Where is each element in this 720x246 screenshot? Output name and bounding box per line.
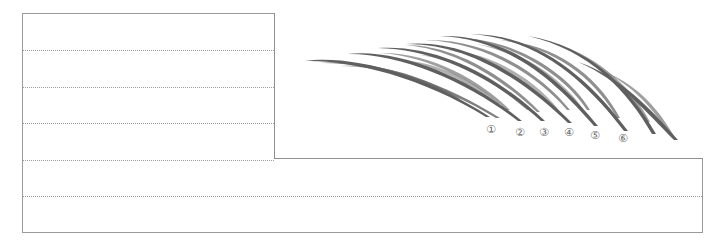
stroke-label-1: ① <box>486 124 496 135</box>
eyebrow-strokes-illustration <box>0 0 720 246</box>
stroke-label-5: ⑤ <box>590 130 600 141</box>
stroke-label-6: ⑥ <box>618 133 628 144</box>
stroke-label-3: ③ <box>539 127 549 138</box>
stroke-label-2: ② <box>515 127 525 138</box>
stroke-label-4: ④ <box>564 127 574 138</box>
